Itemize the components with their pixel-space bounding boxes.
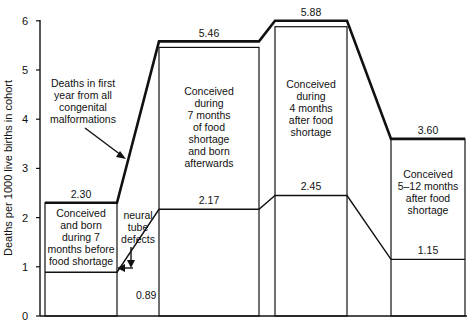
bar-label-after-4: Conceived during 4 months after food sho… — [286, 78, 336, 138]
y-tick-label: 2 — [22, 212, 28, 224]
svg-text:defects: defects — [121, 233, 155, 245]
bar-label-after-5-12: Conceived 5–12 months after food shortag… — [398, 168, 459, 216]
bar-label-before: Conceived and born during 7 months befor… — [47, 207, 114, 267]
value-label: 5.88 — [301, 6, 322, 18]
svg-text:Conceived: Conceived — [286, 78, 336, 90]
svg-text:malformations: malformations — [50, 113, 116, 125]
total-line — [45, 21, 465, 203]
y-tick-label: 4 — [22, 113, 28, 125]
svg-text:year from all: year from all — [54, 89, 112, 101]
y-axis-title: Deaths per 1000 live births in cohort — [2, 80, 14, 256]
svg-text:shortage: shortage — [189, 133, 230, 145]
value-label: 2.30 — [71, 188, 92, 200]
bar-after-4 — [275, 27, 347, 316]
svg-text:after food: after food — [289, 114, 334, 126]
y-tick-label: 0 — [22, 310, 28, 321]
value-label: 0.89 — [136, 289, 157, 301]
y-tick-labels: 0 1 2 3 4 5 6 — [22, 15, 28, 321]
y-tick-label: 5 — [22, 64, 28, 76]
bar-after-5-12 — [391, 139, 465, 316]
svg-text:Conceived: Conceived — [403, 168, 453, 180]
svg-text:during: during — [194, 97, 223, 109]
y-tick-label: 6 — [22, 15, 28, 27]
svg-text:of food: of food — [193, 121, 225, 133]
svg-text:after food: after food — [406, 192, 451, 204]
value-label: 2.17 — [199, 194, 220, 206]
svg-text:food shortage: food shortage — [49, 255, 113, 267]
arrow-line — [85, 128, 121, 155]
annotation-total: Deaths in first year from all congenital… — [50, 77, 126, 159]
svg-text:Conceived: Conceived — [56, 207, 106, 219]
svg-text:shortage: shortage — [408, 204, 449, 216]
svg-text:during: during — [296, 90, 325, 102]
value-label: 1.15 — [418, 244, 439, 256]
svg-text:months before: months before — [47, 243, 114, 255]
svg-text:4 months: 4 months — [289, 102, 332, 114]
bar-label-during: Conceived during 7 months of food shorta… — [184, 85, 234, 169]
svg-text:Deaths in first: Deaths in first — [51, 77, 115, 89]
svg-text:7 months: 7 months — [187, 109, 230, 121]
svg-text:tube: tube — [128, 221, 149, 233]
svg-text:5–12 months: 5–12 months — [398, 180, 459, 192]
svg-text:and born: and born — [60, 219, 102, 231]
svg-text:neural: neural — [123, 209, 152, 221]
arrowhead-down-icon — [127, 260, 135, 268]
svg-text:shortage: shortage — [291, 126, 332, 138]
svg-text:congenital: congenital — [59, 101, 107, 113]
y-tick-label: 3 — [22, 162, 28, 174]
value-label: 2.45 — [301, 180, 322, 192]
value-label: 3.60 — [418, 124, 439, 136]
svg-text:afterwards: afterwards — [184, 157, 233, 169]
value-label: 5.46 — [199, 27, 220, 39]
svg-text:and born: and born — [188, 145, 230, 157]
svg-text:Conceived: Conceived — [184, 85, 234, 97]
y-tick-label: 1 — [22, 261, 28, 273]
chart-canvas: 0 1 2 3 4 5 6 Deaths per 1000 live birth… — [0, 0, 470, 321]
svg-text:during 7: during 7 — [62, 231, 100, 243]
